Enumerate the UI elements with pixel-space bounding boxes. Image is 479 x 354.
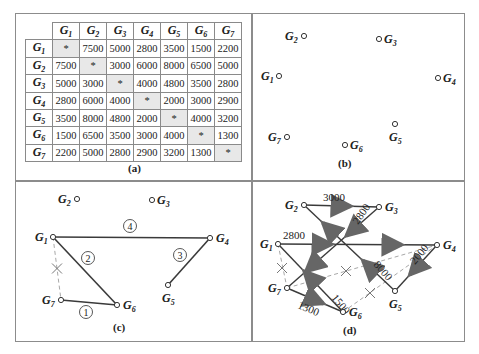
panel-c-caption: (c) (113, 321, 125, 333)
node-marker (275, 241, 280, 246)
node-marker (207, 235, 212, 240)
tree-edge (278, 244, 437, 245)
node-label: G3 (157, 193, 170, 209)
node-label: G2 (285, 29, 298, 45)
node-marker (284, 285, 289, 290)
node-marker (149, 197, 154, 202)
edge-weight-label: 3000 (323, 191, 346, 203)
node-label: G4 (443, 238, 456, 254)
node-marker (301, 202, 306, 207)
node-marker (342, 142, 347, 147)
graph-panels: G1G2G3G4G5G6G7 1234G1G2G3G4G5G6G7 300028… (0, 0, 479, 354)
tree-edge (287, 207, 379, 288)
tree-edge (61, 300, 117, 305)
node-marker (276, 73, 281, 78)
edge-weight-label: 2800 (283, 229, 306, 241)
node-marker (392, 288, 397, 293)
panel-d-weighted-tree: 3000280028008000200015001300G1G2G3G4G5G6… (260, 191, 456, 321)
node-marker (434, 242, 439, 247)
order-number: 4 (128, 221, 133, 232)
node-label: G5 (162, 291, 175, 307)
node-marker (74, 196, 79, 201)
node-label: G3 (385, 200, 398, 216)
node-marker (58, 297, 63, 302)
node-label: G1 (35, 230, 48, 246)
node-marker (165, 282, 170, 287)
node-marker (376, 36, 381, 41)
node-marker (435, 75, 440, 80)
node-marker (114, 302, 119, 307)
node-label: G7 (268, 130, 282, 146)
node-label: G6 (123, 298, 136, 314)
tree-edge (53, 237, 117, 305)
node-label: G5 (389, 297, 402, 313)
node-label: G7 (42, 293, 56, 309)
panel-d-caption: (d) (343, 324, 356, 336)
node-label: G4 (443, 71, 456, 87)
node-label: G4 (216, 231, 229, 247)
tree-edge (304, 205, 395, 291)
node-label: G6 (349, 305, 362, 321)
node-label: G2 (285, 198, 298, 214)
order-number: 1 (84, 307, 89, 318)
node-label: G3 (384, 32, 397, 48)
node-label: G5 (389, 130, 402, 146)
node-label: G6 (350, 138, 363, 154)
flow-arrow-icon (323, 223, 336, 235)
panel-b-caption: (b) (338, 157, 351, 169)
node-marker (392, 121, 397, 126)
tree-edge (53, 237, 210, 238)
node-marker (50, 234, 55, 239)
node-marker (376, 204, 381, 209)
order-number: 2 (86, 253, 91, 264)
figure: G1G2G3G4G5G6G7 G1*7500500028003500150022… (0, 0, 479, 354)
tree-edge (168, 238, 210, 285)
node-label: G1 (261, 69, 274, 85)
node-label: G7 (268, 281, 282, 297)
flow-arrow-icon (306, 259, 320, 271)
flow-arrow-icon (304, 271, 316, 284)
panel-c-kruskal-order: 1234G1G2G3G4G5G6G7 (35, 192, 229, 319)
panel-b-nodes-only: G1G2G3G4G5G6G7 (261, 29, 456, 154)
order-number: 3 (178, 250, 183, 261)
node-label: G2 (58, 192, 71, 208)
edge-weight-label: 2800 (350, 201, 373, 226)
node-marker (340, 309, 345, 314)
node-marker (301, 33, 306, 38)
node-marker (284, 134, 289, 139)
node-label: G1 (260, 237, 273, 253)
